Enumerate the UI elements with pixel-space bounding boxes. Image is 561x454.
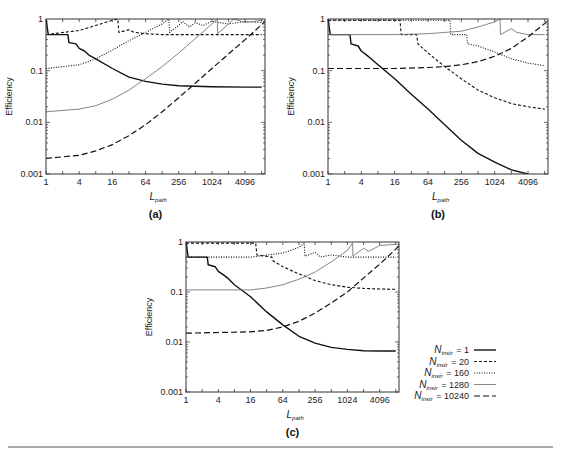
y-tick-label: 0.001: [302, 169, 325, 179]
series-line: N_instr = 160: [186, 243, 396, 257]
legend-item: Ninstr = 1280: [419, 379, 496, 391]
series-line: N_instr = 1: [186, 242, 396, 351]
legend-item: Ninstr = 10240: [414, 390, 496, 402]
x-tick-label: 256: [454, 177, 469, 187]
series-line: N_instr = 20: [46, 19, 262, 35]
x-tick-label: 1: [183, 395, 188, 405]
y-tick-label: 1: [320, 14, 325, 24]
x-axis-title: Lpath: [432, 191, 450, 203]
series-line: N_instr = 10240: [186, 246, 399, 334]
x-tick-label: 64: [423, 177, 433, 187]
legend-item: Ninstr = 1: [434, 344, 496, 356]
y-tick-label: 0.1: [170, 287, 183, 297]
plot-frame: [328, 19, 548, 174]
y-axis-title: Efficiency: [4, 77, 14, 116]
chart-panel-a: N_instr = 1N_instr = 20N_instr = 160N_in…: [4, 14, 265, 220]
x-tick-label: 1024: [202, 177, 222, 187]
legend-item: Ninstr = 20: [429, 356, 496, 368]
y-tick-label: 0.1: [30, 66, 43, 76]
x-tick-label: 4096: [235, 177, 255, 187]
x-tick-label: 64: [278, 395, 288, 405]
chart-panel-b: N_instr = 1N_instr = 20N_instr = 160N_in…: [286, 14, 548, 220]
svg-text:Ninstr = 20: Ninstr = 20: [429, 356, 469, 368]
y-tick-label: 0.001: [20, 169, 43, 179]
x-tick-label: 256: [171, 177, 186, 187]
x-tick-label: 4: [216, 395, 221, 405]
series-group: N_instr = 1N_instr = 20N_instr = 160N_in…: [186, 242, 399, 351]
x-tick-label: 4: [359, 177, 364, 187]
plot-frame: [46, 19, 265, 174]
x-tick-label: 256: [308, 395, 323, 405]
x-tick-label: 64: [141, 177, 151, 187]
y-tick-label: 0.001: [160, 387, 183, 397]
y-axis-title: Efficiency: [286, 77, 296, 116]
x-tick-label: 1: [43, 177, 48, 187]
x-tick-label: 1024: [485, 177, 505, 187]
x-tick-label: 4096: [370, 395, 390, 405]
legend-item: Ninstr = 160: [424, 367, 496, 379]
series-line: N_instr = 10240: [46, 21, 265, 158]
svg-text:Ninstr = 160: Ninstr = 160: [424, 367, 469, 379]
x-tick-label: 4096: [518, 177, 538, 187]
series-group: N_instr = 1N_instr = 20N_instr = 160N_in…: [328, 19, 548, 174]
series-line: N_instr = 1: [328, 19, 528, 174]
svg-text:Ninstr = 1: Ninstr = 1: [434, 344, 469, 356]
efficiency-figure: N_instr = 1N_instr = 20N_instr = 160N_in…: [0, 0, 561, 454]
panel-label: (b): [431, 208, 445, 220]
y-tick-label: 0.01: [307, 117, 325, 127]
y-axis-title: Efficiency: [144, 297, 154, 336]
x-tick-label: 16: [246, 395, 256, 405]
plot-frame: [186, 242, 399, 392]
panel-label: (c): [286, 426, 300, 438]
y-tick-label: 1: [178, 237, 183, 247]
series-line: N_instr = 20: [328, 20, 545, 109]
legend: Ninstr = 1Ninstr = 20Ninstr = 160Ninstr …: [414, 344, 496, 402]
panel-label: (a): [149, 208, 163, 220]
x-tick-label: 4: [77, 177, 82, 187]
y-tick-label: 0.1: [312, 66, 325, 76]
x-tick-label: 1: [325, 177, 330, 187]
x-tick-label: 16: [390, 177, 400, 187]
series-line: N_instr = 1280: [328, 19, 545, 35]
x-tick-label: 16: [107, 177, 117, 187]
y-tick-label: 0.01: [25, 117, 43, 127]
y-tick-label: 1: [38, 14, 43, 24]
series-line: N_instr = 160: [328, 20, 545, 65]
series-line: N_instr = 1280: [46, 19, 262, 112]
series-line: N_instr = 160: [46, 19, 262, 69]
x-axis-title: Lpath: [287, 409, 305, 421]
series-group: N_instr = 1N_instr = 20N_instr = 160N_in…: [46, 19, 265, 158]
y-tick-label: 0.01: [165, 337, 183, 347]
x-axis-title: Lpath: [150, 191, 168, 203]
x-tick-label: 1024: [337, 395, 357, 405]
svg-text:Ninstr = 10240: Ninstr = 10240: [414, 390, 469, 402]
svg-text:Ninstr = 1280: Ninstr = 1280: [419, 379, 469, 391]
chart-panel-c: N_instr = 1N_instr = 20N_instr = 160N_in…: [144, 237, 399, 438]
